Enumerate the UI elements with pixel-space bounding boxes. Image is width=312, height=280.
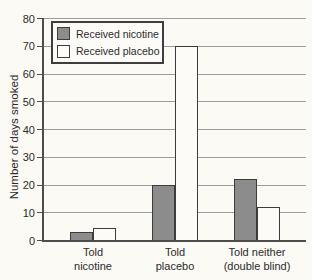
y-tick xyxy=(37,240,42,241)
bar-group xyxy=(152,46,198,240)
bar xyxy=(152,185,175,241)
y-tick xyxy=(37,74,42,75)
figure: Number of days smoked Received nicotine … xyxy=(0,0,312,280)
y-tick-label: 60 xyxy=(10,69,35,80)
bar xyxy=(234,179,257,240)
y-axis-line xyxy=(42,18,44,242)
y-tick-label: 70 xyxy=(10,41,35,52)
legend-label: Received nicotine xyxy=(76,28,159,40)
legend-item-received-placebo: Received placebo xyxy=(57,45,158,58)
y-tick xyxy=(37,46,42,47)
bar xyxy=(70,232,93,240)
legend-label: Received placebo xyxy=(76,45,159,57)
y-tick-label: 40 xyxy=(10,124,35,135)
legend-swatch-white-icon xyxy=(57,45,70,58)
y-tick-label: 20 xyxy=(10,180,35,191)
y-tick xyxy=(37,101,42,102)
y-tick xyxy=(37,157,42,158)
bar-group xyxy=(234,179,280,240)
y-gridline xyxy=(44,18,306,19)
legend-swatch-dark-icon xyxy=(57,27,70,40)
y-tick-label: 0 xyxy=(10,235,35,246)
bar-group xyxy=(70,228,116,240)
legend: Received nicotine Received placebo xyxy=(51,21,164,64)
y-tick-label: 10 xyxy=(10,207,35,218)
y-tick xyxy=(37,212,42,213)
x-category-label: Told neither (double blind) xyxy=(209,246,305,273)
y-tick-label: 30 xyxy=(10,152,35,163)
y-tick-label: 80 xyxy=(10,13,35,24)
x-axis-line xyxy=(42,240,306,242)
legend-item-received-nicotine: Received nicotine xyxy=(57,27,158,40)
bar xyxy=(175,46,198,240)
y-tick xyxy=(37,129,42,130)
bar xyxy=(257,207,280,240)
bar xyxy=(93,228,116,240)
y-tick xyxy=(37,185,42,186)
y-tick-label: 50 xyxy=(10,96,35,107)
y-tick xyxy=(37,18,42,19)
